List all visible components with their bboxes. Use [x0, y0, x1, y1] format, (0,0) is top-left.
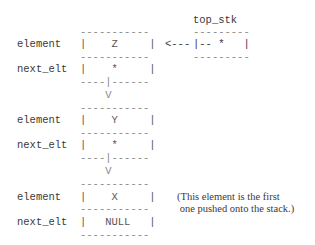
down-arrow-icon: V — [80, 89, 112, 102]
node-z-bottom-border: ----|------ — [80, 76, 149, 89]
node-z-element-label: element — [17, 38, 61, 51]
node-z-top-border: ----------- — [80, 26, 149, 39]
node-y-element-cell: | Y | — [80, 114, 156, 127]
top-stk-pointer-cell: |-- * | — [193, 38, 250, 51]
node-x-mid-border: ----------- — [80, 203, 149, 216]
node-y-bottom-border: ----|------ — [80, 152, 149, 165]
note-line-1: (This element is the first — [177, 191, 280, 204]
node-y-element-label: element — [17, 114, 61, 127]
top-stk-arrow: <--- — [165, 38, 190, 51]
node-z-mid-border: ----------- — [80, 51, 149, 64]
node-y-mid-border: ----------- — [80, 127, 149, 140]
node-y-next-label: next_elt — [17, 139, 67, 152]
node-x-top-border: ----------- — [80, 178, 149, 191]
node-x-element-cell: | X | — [80, 191, 156, 204]
top-stk-label: top_stk — [193, 14, 237, 27]
node-z-element-cell: | Z | — [80, 38, 156, 51]
node-x-next-cell: | NULL | — [80, 216, 156, 229]
node-x-bottom-border: ----------- — [80, 229, 149, 242]
node-x-element-label: element — [17, 191, 61, 204]
node-z-next-cell: | * | — [80, 63, 156, 76]
top-stk-bottom-border: --------- — [193, 51, 250, 64]
down-arrow-icon: V — [80, 165, 112, 178]
top-stk-top-border: --------- — [193, 26, 250, 39]
node-y-top-border: ----------- — [80, 102, 149, 115]
node-z-next-label: next_elt — [17, 63, 67, 76]
node-y-next-cell: | * | — [80, 139, 156, 152]
note-line-2: one pushed onto the stack.) — [177, 203, 294, 216]
node-x-next-label: next_elt — [17, 216, 67, 229]
